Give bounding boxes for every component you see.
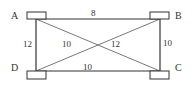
weight-a-c: 10 [62,39,72,49]
weight-d-c: 10 [83,62,93,72]
graph-diagram: A B C D 8 12 10 12 10 10 [0,0,194,89]
node-d-label: D [11,62,18,73]
node-c-box [150,71,169,79]
node-c-label: C [175,62,182,73]
node-a-label: A [11,10,19,21]
node-d-box [27,71,46,79]
weight-a-b: 8 [91,8,96,18]
node-b-label: B [175,10,182,21]
node-b-box [150,12,169,19]
weight-b-d: 12 [111,39,120,49]
node-a-box [27,12,46,19]
weight-b-c: 10 [163,38,173,48]
weight-a-d: 12 [23,39,32,49]
